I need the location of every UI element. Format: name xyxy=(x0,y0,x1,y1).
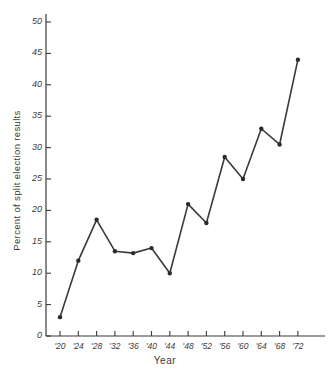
data-point-marker xyxy=(58,315,62,319)
y-axis-ticks xyxy=(46,22,51,336)
y-axis-tick-labels: 05101520253035404550 xyxy=(18,0,42,373)
x-axis-tick-labels: '20'24'28'32'36'40'44'48'52'56'60'64'68'… xyxy=(0,341,330,355)
axes xyxy=(46,14,325,336)
y-tick-label: 45 xyxy=(20,48,42,57)
data-point-marker xyxy=(223,155,227,159)
line-plot-svg xyxy=(0,0,330,373)
y-tick-label: 35 xyxy=(20,111,42,120)
data-series xyxy=(60,60,298,317)
y-tick-label: 20 xyxy=(20,205,42,214)
data-point-marker xyxy=(168,271,172,275)
data-point-marker xyxy=(186,202,190,206)
y-tick-label: 5 xyxy=(20,300,42,309)
y-tick-label: 40 xyxy=(20,80,42,89)
x-tick-label: '72 xyxy=(285,341,311,351)
data-point-markers xyxy=(58,57,300,319)
data-point-marker xyxy=(76,258,80,262)
y-tick-label: 15 xyxy=(20,237,42,246)
x-axis-label: Year xyxy=(0,355,330,366)
data-point-marker xyxy=(113,249,117,253)
y-tick-label: 25 xyxy=(20,174,42,183)
data-point-marker xyxy=(277,142,281,146)
data-point-marker xyxy=(204,221,208,225)
y-tick-label: 50 xyxy=(20,17,42,26)
chart-container: Percent of split election results Year 0… xyxy=(0,0,330,373)
data-point-marker xyxy=(149,246,153,250)
data-point-marker xyxy=(241,177,245,181)
x-axis-ticks xyxy=(60,331,298,336)
data-point-marker xyxy=(259,127,263,131)
y-tick-label: 10 xyxy=(20,268,42,277)
y-tick-label: 0 xyxy=(20,331,42,340)
y-tick-label: 30 xyxy=(20,143,42,152)
chart-title-remnant xyxy=(0,0,330,9)
series-line xyxy=(60,60,298,317)
data-point-marker xyxy=(296,57,300,61)
data-point-marker xyxy=(94,218,98,222)
data-point-marker xyxy=(131,251,135,255)
